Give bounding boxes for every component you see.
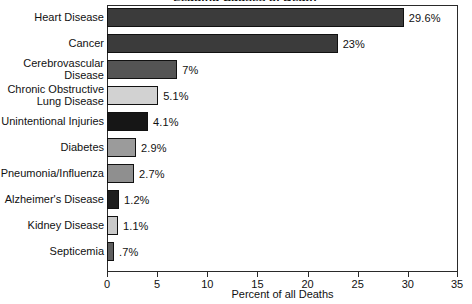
bar-row: 4.1% (107, 112, 458, 131)
bar-value-label: 23% (343, 38, 365, 50)
x-axis-tick (157, 272, 158, 277)
bar (107, 216, 118, 235)
bars-layer: 29.6%23%7%5.1%4.1%2.9%2.7%1.2%1.1%.7% (107, 5, 458, 272)
bar (107, 242, 114, 261)
category-label: Septicemia (0, 245, 104, 257)
bar-row: 7% (107, 60, 458, 79)
x-axis-tick (257, 272, 258, 277)
x-axis-title: Percent of all Deaths (107, 288, 458, 300)
category-label: Cancer (0, 37, 104, 49)
bar (107, 190, 119, 209)
bar-value-label: .7% (119, 246, 138, 258)
category-label: Cerebrovascular Disease (0, 57, 104, 81)
category-label: Unintentional Injuries (0, 115, 104, 127)
bar-value-label: 7% (182, 64, 198, 76)
bar (107, 138, 136, 157)
bar (107, 112, 148, 131)
bar-chart: Leading Causes of Death Heart DiseaseCan… (0, 0, 472, 304)
bar-row: 1.2% (107, 190, 458, 209)
bar-row: 23% (107, 34, 458, 53)
bar-value-label: 1.1% (123, 220, 148, 232)
bar-value-label: 5.1% (163, 90, 188, 102)
bar-row: 2.7% (107, 164, 458, 183)
category-axis-labels: Heart DiseaseCancerCerebrovascular Disea… (0, 5, 104, 272)
bar (107, 60, 177, 79)
bar-value-label: 29.6% (409, 12, 441, 24)
x-axis-tick (408, 272, 409, 277)
category-label: Alzheimer's Disease (0, 193, 104, 205)
x-axis-tick (457, 272, 458, 277)
x-axis-tick (107, 272, 108, 277)
bar-value-label: 4.1% (153, 116, 178, 128)
category-label: Pneumonia/Influenza (0, 167, 104, 179)
bar-value-label: 2.9% (141, 142, 166, 154)
bar-row: 5.1% (107, 86, 458, 105)
bar-row: .7% (107, 242, 458, 261)
x-axis-tick (358, 272, 359, 277)
bar-row: 2.9% (107, 138, 458, 157)
x-axis-tick (207, 272, 208, 277)
category-label: Chronic Obstructive Lung Disease (0, 83, 104, 107)
bar-value-label: 1.2% (124, 194, 149, 206)
chart-title: Leading Causes of Death (130, 0, 360, 1)
bar (107, 34, 338, 53)
bar (107, 8, 404, 27)
bar-row: 1.1% (107, 216, 458, 235)
category-label: Diabetes (0, 141, 104, 153)
x-axis-tick (308, 272, 309, 277)
bar-row: 29.6% (107, 8, 458, 27)
bar (107, 164, 134, 183)
bar (107, 86, 158, 105)
category-label: Heart Disease (0, 11, 104, 23)
category-label: Kidney Disease (0, 219, 104, 231)
bar-value-label: 2.7% (139, 168, 164, 180)
